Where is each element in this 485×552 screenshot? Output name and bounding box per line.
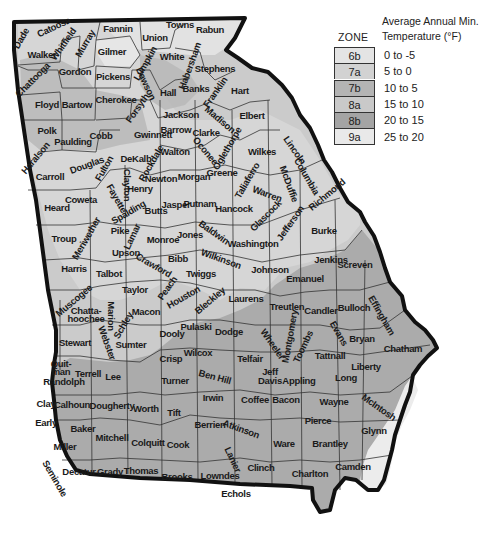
county-label: Taylor [122, 284, 149, 295]
county-label: Thomas [124, 465, 159, 476]
county-label: Coweta [65, 194, 98, 205]
county-label: Tift [167, 407, 182, 418]
county-label: Irwin [203, 392, 224, 403]
county-label: Treutlen [270, 301, 305, 312]
county-label: Miller [53, 441, 77, 452]
county-label: Laurens [229, 293, 264, 304]
county-label: Gwinnett [134, 129, 173, 140]
county-label: Telfair [237, 353, 263, 364]
county-label: Burke [311, 225, 336, 236]
county-label: Appling [282, 375, 316, 386]
county-label: Emanuel [286, 273, 324, 284]
county-label: Charlton [292, 468, 329, 479]
zone-swatch: 7a [334, 63, 375, 79]
county-label: Jackson [163, 109, 199, 120]
zone-swatch: 8b [334, 112, 375, 128]
legend-row-8a: 8a 15 to 10 [334, 96, 424, 112]
county-label: Carroll [36, 171, 65, 182]
county-label: Dodge [215, 326, 243, 337]
county-label: Dougherty [90, 400, 136, 411]
legend-rows: 6b 0 to -5 7a 5 to 0 7b 10 to 5 8a 15 to… [334, 47, 424, 145]
county-label: Dooly [160, 328, 186, 339]
legend-zone-header: ZONE [338, 31, 368, 43]
county-label: Lee [105, 371, 120, 382]
county-label: Turner [161, 375, 189, 386]
zone-range: 20 to 15 [384, 114, 424, 126]
county-label: Union [142, 32, 168, 43]
county-label: Wilkes [248, 146, 276, 157]
county-label: Pickens [96, 71, 130, 82]
zone-range: 5 to 0 [384, 65, 412, 77]
county-label: Crisp [160, 353, 183, 364]
county-label: Putnam [183, 198, 216, 209]
legend-title-line2: Temperature (°F) [382, 29, 485, 44]
county-label: Stephens [195, 63, 235, 74]
legend-row-7b: 7b 10 to 5 [334, 80, 424, 96]
county-label: Cobb [89, 130, 113, 141]
county-label: Towns [166, 19, 194, 30]
county-label: White [160, 51, 184, 62]
county-label: Walker [27, 49, 57, 60]
county-label: Pierce [305, 415, 332, 426]
county-label: Henry [127, 183, 153, 194]
county-label: Pulaski [180, 321, 211, 332]
county-label: Randolph [43, 376, 85, 387]
county-label: Washington [228, 238, 279, 249]
county-label: Clinch [247, 462, 275, 473]
county-label: Calhoun [54, 399, 90, 410]
county-label: Stewart [59, 337, 92, 348]
zone-range: 10 to 5 [384, 82, 418, 94]
county-label: Worth [133, 403, 159, 414]
county-label: Banks [182, 83, 209, 94]
county-label: Echols [221, 488, 250, 499]
county-label: Gordon [59, 66, 92, 77]
county-label: Talbot [96, 268, 123, 279]
county-label: Monroe [147, 234, 180, 245]
legend-row-6b: 6b 0 to -5 [334, 47, 424, 63]
county-label: Coffee [241, 394, 269, 405]
county-label: Davis [258, 375, 282, 386]
county-label: Seminole [40, 458, 69, 498]
legend-title-line1: Average Annual Min. [382, 14, 485, 29]
county-label: Paulding [54, 136, 92, 147]
county-label: Candler [304, 305, 338, 316]
county-label: Greene [207, 167, 238, 178]
county-label: Hart [231, 85, 250, 96]
legend-row-8b: 8b 20 to 15 [334, 112, 424, 128]
county-label: Brantley [312, 438, 349, 449]
county-label: Liberty [351, 361, 382, 372]
county-label: Elbert [239, 110, 265, 121]
county-label: Sumter [116, 339, 148, 350]
county-label: Gilmer [98, 46, 127, 57]
county-label: Rabun [196, 24, 225, 35]
county-label: Wayne [320, 396, 349, 407]
county-label: Cook [167, 439, 191, 450]
county-label: Early [35, 417, 58, 428]
county-label: Hall [160, 87, 176, 98]
zone-swatch: 7b [334, 80, 375, 96]
county-label: Floyd [35, 99, 59, 110]
county-label: Heard [44, 202, 70, 213]
county-label: hoochee [68, 313, 105, 324]
county-label: Walton [160, 146, 190, 157]
county-label: Bacon [272, 394, 300, 405]
zone-swatch: 8a [334, 96, 375, 112]
county-label: Chatham [384, 343, 423, 354]
county-label: Fannin [103, 23, 133, 34]
county-label: Polk [38, 125, 58, 136]
county-label: Jones [177, 229, 203, 240]
county-label: Wilcox [184, 347, 214, 358]
zone-swatch: 6b [334, 47, 375, 63]
county-label: Grady [97, 466, 124, 477]
county-label: Bibb [168, 253, 188, 264]
county-label: Glynn [361, 425, 387, 436]
zone-range: 25 to 20 [384, 131, 424, 143]
zone-swatch: 9a [334, 128, 375, 145]
county-label: Berrien [194, 419, 226, 430]
county-label: Baker [71, 423, 97, 434]
county-label: Troup [52, 233, 77, 244]
county-label: Macon [132, 306, 161, 317]
zone-range: 15 to 10 [384, 98, 424, 110]
zone-range: 0 to -5 [384, 49, 415, 61]
county-label: Brooks [162, 471, 193, 482]
